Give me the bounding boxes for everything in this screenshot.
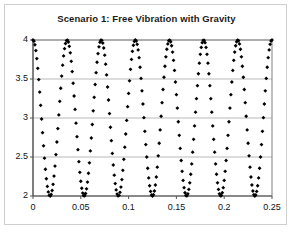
data-point <box>233 50 237 54</box>
data-point <box>69 59 73 63</box>
data-point <box>85 187 89 191</box>
data-point <box>229 93 233 97</box>
data-point <box>126 105 130 109</box>
data-point <box>56 127 60 131</box>
data-point <box>209 97 213 101</box>
data-point <box>173 69 177 73</box>
data-point <box>232 58 236 62</box>
data-point <box>207 72 211 76</box>
data-point <box>35 57 39 61</box>
data-point <box>191 150 195 154</box>
data-point <box>74 121 78 125</box>
data-point <box>260 143 264 147</box>
data-point <box>34 49 38 53</box>
data-point <box>94 71 98 75</box>
data-point <box>148 184 152 188</box>
x-tick-label: 0 <box>13 202 53 212</box>
data-point <box>245 128 249 132</box>
data-point <box>136 48 140 52</box>
data-point <box>70 70 74 74</box>
x-tick-label: 0.2 <box>204 202 244 212</box>
data-point <box>59 86 63 90</box>
data-point <box>46 190 50 194</box>
data-point <box>76 148 80 152</box>
data-point <box>121 168 125 172</box>
data-point <box>263 89 267 93</box>
data-point <box>77 160 81 164</box>
data-point <box>225 146 229 150</box>
data-point <box>105 73 109 77</box>
data-point <box>86 180 90 184</box>
data-point <box>226 133 230 137</box>
data-point <box>258 166 262 170</box>
data-point <box>96 52 100 56</box>
data-point <box>210 110 214 114</box>
data-point <box>91 109 95 113</box>
data-point <box>268 42 272 46</box>
data-point <box>157 141 161 145</box>
data-point <box>240 64 244 68</box>
data-point <box>87 161 91 165</box>
data-point <box>176 120 180 124</box>
data-point <box>144 143 148 147</box>
data-point <box>216 181 220 185</box>
data-point <box>130 58 134 62</box>
data-point <box>54 153 58 157</box>
data-point <box>164 55 168 59</box>
y-tick-label: 3 <box>4 112 28 122</box>
data-point <box>63 47 67 51</box>
data-point <box>251 189 255 193</box>
data-point <box>174 93 178 97</box>
data-point <box>145 155 149 159</box>
data-point <box>109 139 113 143</box>
chart-container: Scenario 1: Free Vibration with Gravity … <box>0 0 293 233</box>
data-point <box>179 159 183 163</box>
data-point <box>37 78 41 82</box>
data-point <box>127 91 131 95</box>
data-point <box>249 175 253 179</box>
data-point <box>212 137 216 141</box>
data-point <box>107 98 111 102</box>
data-point <box>36 66 40 70</box>
data-point <box>163 64 167 68</box>
data-point <box>256 184 260 188</box>
data-point <box>97 45 101 49</box>
data-point <box>214 162 218 166</box>
data-point <box>257 176 261 180</box>
data-point <box>199 46 203 50</box>
data-point <box>114 188 118 192</box>
data-point <box>149 190 153 194</box>
data-point <box>124 132 128 136</box>
data-point <box>55 140 59 144</box>
data-point <box>118 190 122 194</box>
data-point <box>44 167 48 171</box>
data-point <box>267 48 271 52</box>
data-point <box>123 145 127 149</box>
data-point <box>261 129 265 133</box>
data-point <box>50 189 54 193</box>
data-point <box>262 102 266 106</box>
data-point <box>104 62 108 66</box>
data-point <box>265 65 269 69</box>
data-point <box>193 124 197 128</box>
data-point <box>143 129 147 133</box>
data-point <box>113 182 117 186</box>
data-point <box>221 186 225 190</box>
data-point <box>197 61 201 65</box>
data-point <box>80 186 84 190</box>
y-tick-label: 4 <box>4 34 28 44</box>
data-point <box>131 43 135 47</box>
data-point <box>68 51 72 55</box>
data-point <box>223 169 227 173</box>
data-point <box>158 128 162 132</box>
data-point <box>78 170 82 174</box>
data-point <box>67 44 71 48</box>
data-point <box>196 84 200 88</box>
data-point <box>53 164 57 168</box>
data-point <box>93 83 97 87</box>
data-point <box>95 60 99 64</box>
data-point <box>189 172 193 176</box>
data-point <box>211 124 215 128</box>
data-point <box>140 89 144 93</box>
data-point <box>122 157 126 161</box>
